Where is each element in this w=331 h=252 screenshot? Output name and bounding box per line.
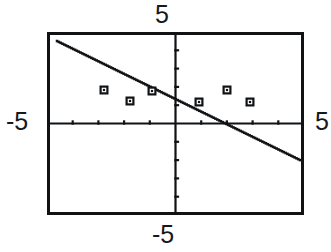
x-axis-max-label: 5 [315,109,329,134]
y-axis-min-label: -5 [152,222,174,247]
y-axis-max-label: 5 [155,2,169,27]
x-axis-min-label: -5 [6,109,28,134]
plot-figure: 5 -5 5 -5 [0,0,331,252]
graph-frame [47,32,304,215]
